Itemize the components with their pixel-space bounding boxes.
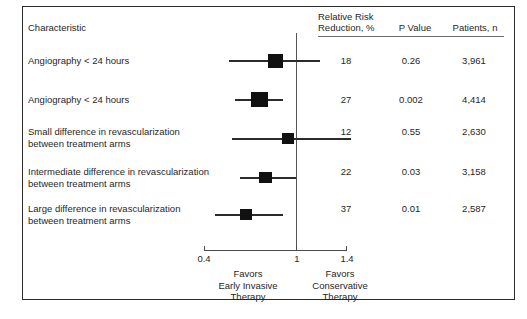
row-label: Large difference in revascularization be…	[28, 203, 263, 226]
cell-patients: 3,961	[444, 55, 504, 66]
cell-relative-risk-reduction: 18	[318, 55, 374, 66]
header-rule-divider	[318, 36, 504, 37]
cell-relative-risk-reduction: 12	[318, 126, 374, 137]
favors-left-label: Favors Early Invasive Therapy	[202, 268, 294, 303]
column-header-p-value: P Value	[392, 22, 438, 33]
column-header-relative-risk-reduction: Relative Risk Reduction, %	[318, 11, 386, 33]
row-label: Intermediate difference in revasculariza…	[28, 166, 263, 189]
x-axis-tick-label: 0.4	[189, 253, 219, 264]
cell-relative-risk-reduction: 22	[318, 166, 374, 177]
cell-patients: 2,587	[444, 203, 504, 214]
cell-patients: 4,414	[444, 94, 504, 105]
column-header-patients: Patients, n	[444, 22, 506, 33]
cell-p-value: 0.55	[384, 126, 438, 137]
column-header-characteristic: Characteristic	[28, 22, 86, 33]
cell-patients: 3,158	[444, 166, 504, 177]
figure-frame	[22, 6, 515, 300]
x-axis-tick-label: 1.4	[332, 253, 362, 264]
cell-p-value: 0.002	[384, 94, 438, 105]
row-label: Angiography < 24 hours	[28, 55, 263, 67]
x-axis-tick-label: 1	[282, 253, 312, 264]
cell-relative-risk-reduction: 27	[318, 94, 374, 105]
favors-right-label: Favors Conservative Therapy	[294, 268, 386, 303]
cell-p-value: 0.26	[384, 55, 438, 66]
row-label: Small difference in revascularization be…	[28, 126, 263, 149]
cell-p-value: 0.01	[384, 203, 438, 214]
cell-patients: 2,630	[444, 126, 504, 137]
forest-plot-figure: Characteristic Relative Risk Reduction, …	[0, 0, 527, 319]
cell-p-value: 0.03	[384, 166, 438, 177]
cell-relative-risk-reduction: 37	[318, 203, 374, 214]
row-label: Angiography < 24 hours	[28, 94, 263, 106]
